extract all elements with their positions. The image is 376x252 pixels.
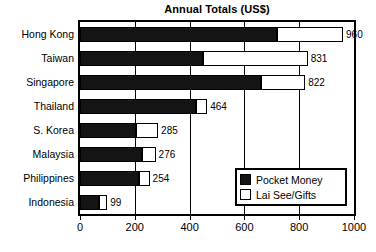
bar-value-label: 822 bbox=[308, 77, 325, 88]
legend-item: Pocket Money bbox=[240, 172, 342, 187]
y-axis-label-thailand: Thailand bbox=[0, 100, 74, 112]
bar-segment-pocket-money bbox=[80, 51, 203, 66]
bar-chart: Annual Totals (US$) Hong KongTaiwanSinga… bbox=[0, 0, 376, 252]
legend-label: Pocket Money bbox=[256, 174, 323, 186]
bar-row bbox=[80, 123, 354, 138]
x-tick-label-400: 400 bbox=[170, 221, 210, 234]
bar-segment-lai-see-gifts bbox=[136, 123, 158, 138]
bar-segment-pocket-money bbox=[80, 27, 277, 42]
x-tick-label-1000: 1000 bbox=[334, 221, 374, 234]
x-tick-1000 bbox=[354, 216, 355, 220]
y-axis-label-taiwan: Taiwan bbox=[0, 52, 74, 64]
bar-segment-lai-see-gifts bbox=[142, 147, 156, 162]
y-axis-label-s-korea: S. Korea bbox=[0, 124, 74, 136]
bar-segment-lai-see-gifts bbox=[139, 171, 150, 186]
bar-segment-pocket-money bbox=[80, 99, 196, 114]
legend-swatch-dark bbox=[240, 174, 251, 185]
chart-title: Annual Totals (US$) bbox=[78, 3, 356, 15]
bar-segment-pocket-money bbox=[80, 147, 142, 162]
bar-segment-lai-see-gifts bbox=[203, 51, 307, 66]
y-axis-label-indonesia: Indonesia bbox=[0, 196, 74, 208]
x-tick-200 bbox=[135, 216, 136, 220]
x-tick-800 bbox=[299, 216, 300, 220]
legend-label: Lai See/Gifts bbox=[256, 189, 316, 201]
bar-segment-pocket-money bbox=[80, 171, 139, 186]
y-axis-label-philippines: Philippines bbox=[0, 172, 74, 184]
x-tick-label-600: 600 bbox=[224, 221, 264, 234]
bar-segment-lai-see-gifts bbox=[196, 99, 207, 114]
y-axis-label-hong-kong: Hong Kong bbox=[0, 28, 74, 40]
bar-value-label: 99 bbox=[110, 197, 121, 208]
x-tick-600 bbox=[244, 216, 245, 220]
legend-swatch-light bbox=[240, 189, 251, 200]
bar-segment-lai-see-gifts bbox=[277, 27, 343, 42]
bar-segment-lai-see-gifts bbox=[261, 75, 305, 90]
bar-segment-pocket-money bbox=[80, 195, 99, 210]
x-tick-0 bbox=[80, 216, 81, 220]
bar-segment-pocket-money bbox=[80, 123, 136, 138]
x-tick-label-200: 200 bbox=[115, 221, 155, 234]
bar-segment-lai-see-gifts bbox=[99, 195, 107, 210]
bar-value-label: 276 bbox=[159, 149, 176, 160]
bar-value-label: 254 bbox=[153, 173, 170, 184]
bar-value-label: 464 bbox=[210, 101, 227, 112]
bar-value-label: 285 bbox=[161, 125, 178, 136]
bar-row bbox=[80, 27, 354, 42]
bar-segment-pocket-money bbox=[80, 75, 261, 90]
y-axis-label-malaysia: Malaysia bbox=[0, 148, 74, 160]
x-tick-400 bbox=[190, 216, 191, 220]
chart-legend: Pocket MoneyLai See/Gifts bbox=[235, 168, 347, 206]
y-axis-label-singapore: Singapore bbox=[0, 76, 74, 88]
x-tick-label-800: 800 bbox=[279, 221, 319, 234]
bar-value-label: 831 bbox=[311, 53, 328, 64]
bar-value-label: 960 bbox=[346, 29, 363, 40]
bar-row bbox=[80, 147, 354, 162]
y-axis-category-labels: Hong KongTaiwanSingaporeThailandS. Korea… bbox=[0, 20, 74, 216]
x-tick-label-0: 0 bbox=[60, 221, 100, 234]
legend-item: Lai See/Gifts bbox=[240, 187, 342, 202]
